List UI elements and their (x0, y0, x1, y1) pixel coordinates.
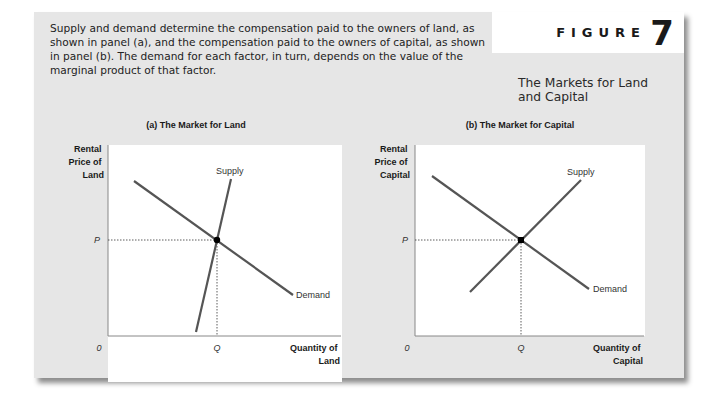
panel-b-title: (b) The Market for Capital (466, 120, 575, 130)
panel-a-p-label: P (94, 235, 100, 245)
panel-b-x-label: Quantity of Capital (593, 343, 643, 366)
panel-a-y-label: Rental Price of Land (68, 144, 104, 180)
panel-b-plot-area (415, 145, 645, 336)
panel-b-equilibrium-point (518, 237, 524, 243)
panel-b-supply-label: Supply (567, 167, 595, 177)
panel-b-demand-label: Demand (593, 284, 627, 294)
panel-land: (a) The Market for Land Rental Price of … (68, 120, 342, 382)
panel-b-y-label: Rental Price of Capital (374, 144, 410, 180)
panel-a-equilibrium-point (214, 237, 220, 243)
panel-a-q-label: Q (213, 343, 220, 353)
panel-a-demand-label: Demand (296, 290, 330, 300)
panel-b-q-label: Q (517, 343, 524, 353)
panel-b-p-label: P (402, 235, 408, 245)
panel-b-origin-label: 0 (404, 343, 409, 353)
panel-a-supply-label: Supply (216, 166, 244, 176)
panel-a-origin-label: 0 (96, 343, 101, 353)
panel-a-title: (a) The Market for Land (146, 120, 246, 130)
panel-capital: (b) The Market for Capital Rental Price … (374, 120, 645, 366)
charts-svg: (a) The Market for Land Rental Price of … (0, 0, 720, 405)
